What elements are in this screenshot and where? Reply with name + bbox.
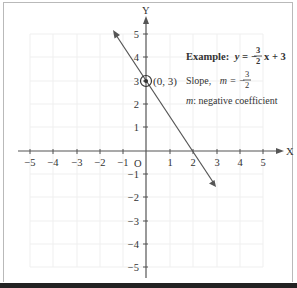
equation-annotation: Example: y = − 3 2 x + 3 Slope, m = − 3 … [186, 45, 286, 106]
arrow-up-icon [113, 30, 120, 39]
x-tick-label: −4 [47, 157, 59, 168]
y-tick-label: −4 [128, 239, 140, 250]
y-axis-label: Y [142, 5, 150, 16]
x-tick-label: −3 [71, 157, 82, 168]
x-tick-label: 5 [260, 157, 265, 168]
x-axis [18, 148, 284, 154]
x-tick-label: 4 [237, 157, 243, 168]
svg-text:m: negative coefficient: m: negative coefficient [186, 95, 278, 106]
x-tick-label: 3 [214, 157, 219, 168]
equation-lhs: y = − [233, 51, 257, 62]
slope-fraction-numerator: 3 [245, 69, 249, 79]
svg-text:Example: y = −: Example: y = − [186, 51, 257, 62]
y-tick-label: −2 [128, 192, 139, 203]
y-tick-label: −5 [128, 262, 139, 273]
x-tick-label: −5 [24, 157, 35, 168]
x-tick-label: −1 [117, 157, 128, 168]
y-tick-label: 5 [134, 29, 139, 40]
fraction-denominator: 2 [256, 56, 260, 66]
y-tick-label: −3 [128, 216, 139, 227]
y-tick-label: 2 [134, 99, 139, 110]
y-tick-label: 4 [134, 52, 140, 63]
coordinate-plane: X Y O −5 −4 −3 −2 −1 1 2 3 4 5 5 4 3 2 1… [0, 0, 297, 288]
slope-fraction-denominator: 2 [245, 80, 249, 90]
bottom-bar [0, 283, 297, 288]
y-tick-label: −1 [128, 169, 139, 180]
y-tick-label: 1 [134, 122, 139, 133]
y-axis [143, 16, 149, 278]
example-label: Example: [186, 51, 229, 62]
coefficient-note: : negative coefficient [193, 95, 277, 106]
coefficient-symbol: m [186, 95, 193, 106]
x-tick-label: 1 [167, 157, 172, 168]
x-tick-label: 2 [190, 157, 195, 168]
origin-label: O [134, 158, 142, 169]
x-tick-label: −2 [94, 157, 105, 168]
fraction-numerator: 3 [256, 45, 260, 55]
slope-equation: m = − [220, 75, 246, 86]
y-tick-label: 3 [134, 76, 139, 87]
equation-rhs: x + 3 [264, 51, 286, 62]
slope-label: Slope, [186, 75, 211, 86]
x-axis-label: X [286, 146, 294, 157]
point-label: (0, 3) [153, 75, 177, 88]
